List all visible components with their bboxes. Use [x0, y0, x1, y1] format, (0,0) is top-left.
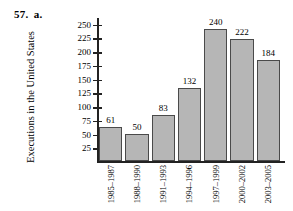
y-tick-label: 25 — [82, 144, 91, 153]
y-tick-label: 175 — [78, 62, 92, 71]
x-tick-label: 1991–1993 — [159, 165, 168, 203]
bar — [230, 39, 253, 161]
bar-group: 2222000–2002 — [230, 17, 253, 161]
x-axis-line — [97, 161, 285, 163]
bar-value-label: 50 — [132, 122, 141, 132]
x-tick-label: 1997–1999 — [211, 165, 220, 203]
bar — [99, 127, 122, 161]
bar-group: 831991–1993 — [152, 17, 175, 161]
bar-group: 1842003–2005 — [257, 17, 280, 161]
bar-value-label: 132 — [183, 76, 197, 86]
bar — [178, 88, 201, 161]
x-tick-label: 2000–2002 — [238, 165, 247, 203]
bar — [257, 60, 280, 161]
bar-value-label: 222 — [235, 27, 249, 37]
x-tick-label: 1988–1990 — [132, 165, 141, 203]
bar-value-label: 83 — [159, 103, 168, 113]
y-tick-label: 150 — [78, 76, 92, 85]
figure: 57.a. Executions in the United States 25… — [0, 0, 293, 211]
bar-series: 611985–1987501988–1990831991–19931321994… — [98, 18, 285, 161]
x-tick-label: 1994–1996 — [185, 165, 194, 203]
y-tick-label: 50 — [82, 131, 91, 140]
x-tick-label: 2003–2005 — [264, 165, 273, 203]
bar-group: 501988–1990 — [125, 17, 148, 161]
bar-value-label: 240 — [209, 17, 223, 27]
y-tick-label: 125 — [78, 89, 92, 98]
y-tick-label: 200 — [78, 48, 92, 57]
bar — [125, 134, 148, 161]
bar-group: 1321994–1996 — [178, 17, 201, 161]
y-tick-label: 225 — [78, 34, 92, 43]
bar-group: 2401997–1999 — [204, 17, 227, 161]
bar — [204, 29, 227, 161]
bar-group: 611985–1987 — [99, 17, 122, 161]
y-tick-label: 75 — [82, 117, 91, 126]
y-tick-label: 100 — [78, 103, 92, 112]
x-tick-label: 1985–1987 — [106, 165, 115, 203]
bar — [152, 115, 175, 161]
y-tick-label: 250 — [78, 21, 92, 30]
bar-value-label: 61 — [106, 115, 115, 125]
y-axis-title: Executions in the United States — [24, 17, 38, 177]
plot-area: 255075100125150175200225250 611985–19875… — [97, 18, 285, 162]
bar-value-label: 184 — [262, 48, 276, 58]
